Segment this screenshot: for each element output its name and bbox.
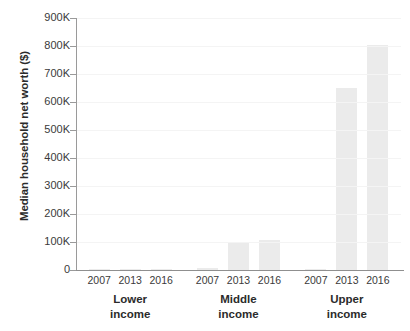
gridline: [77, 214, 401, 215]
y-tick-mark: [70, 242, 76, 243]
bar: [197, 268, 218, 270]
y-tick-label: 0: [26, 264, 70, 275]
gridline: [77, 102, 401, 103]
x-tick-label: 2016: [149, 274, 172, 286]
bar: [228, 242, 249, 270]
group-label-line2: income: [327, 307, 367, 322]
x-tick-label: 2013: [335, 274, 358, 286]
bars-layer: [76, 18, 401, 270]
y-tick-label: 900K: [26, 12, 70, 23]
gridline: [77, 130, 401, 131]
y-tick-mark: [70, 158, 76, 159]
group-label: Lowerincome: [110, 292, 150, 321]
x-tick-label: 2016: [366, 274, 389, 286]
bar: [89, 269, 110, 270]
y-tick-label: 500K: [26, 124, 70, 135]
gridline: [77, 46, 401, 47]
y-tick-mark: [70, 130, 76, 131]
y-tick-mark: [70, 18, 76, 19]
gridline: [77, 74, 401, 75]
bar-chart: Median household net worth ($) 0100K200K…: [0, 0, 410, 331]
x-tick-label: 2013: [227, 274, 250, 286]
gridline: [77, 242, 401, 243]
y-tick-mark: [70, 186, 76, 187]
group-label: Middleincome: [218, 292, 258, 321]
y-tick-mark: [70, 46, 76, 47]
y-tick-label: 700K: [26, 68, 70, 79]
bar: [305, 269, 326, 270]
bar: [259, 240, 280, 270]
y-tick-mark: [70, 214, 76, 215]
y-tick-mark: [70, 270, 76, 271]
group-label-line1: Upper: [327, 292, 367, 307]
group-label-line1: Lower: [110, 292, 150, 307]
x-tick-label: 2013: [118, 274, 141, 286]
y-tick-label: 100K: [26, 236, 70, 247]
gridline: [77, 18, 401, 19]
y-tick-label: 300K: [26, 180, 70, 191]
x-tick-label: 2007: [304, 274, 327, 286]
x-tick-label: 2016: [258, 274, 281, 286]
group-label-line2: income: [110, 307, 150, 322]
y-tick-label: 200K: [26, 208, 70, 219]
y-axis-tick-labels: 0100K200K300K400K500K600K700K800K900K: [22, 0, 70, 331]
gridline: [77, 158, 401, 159]
x-tick-label: 2007: [196, 274, 219, 286]
bar: [151, 269, 172, 270]
group-label: Upperincome: [327, 292, 367, 321]
y-tick-label: 600K: [26, 96, 70, 107]
group-label-line1: Middle: [218, 292, 258, 307]
y-tick-mark: [70, 74, 76, 75]
x-axis-line: [71, 270, 404, 271]
bar: [120, 269, 141, 270]
y-tick-label: 400K: [26, 152, 70, 163]
gridline: [77, 186, 401, 187]
x-tick-label: 2007: [87, 274, 110, 286]
y-tick-mark: [70, 102, 76, 103]
y-tick-label: 800K: [26, 40, 70, 51]
group-label-line2: income: [218, 307, 258, 322]
